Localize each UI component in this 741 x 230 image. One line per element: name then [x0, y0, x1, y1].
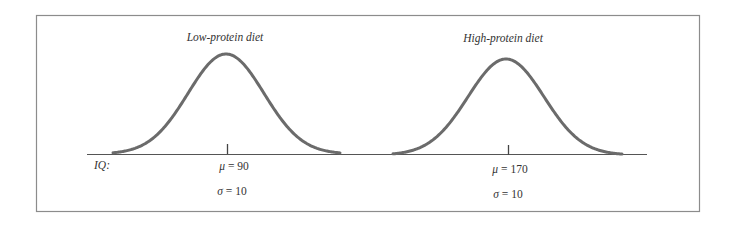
mean-value: = 170 [501, 163, 528, 175]
sigma-symbol: σ [217, 185, 223, 197]
low-protein-curve [113, 54, 340, 153]
high-protein-title: High-protein diet [463, 33, 543, 45]
x-axis-label: IQ: [94, 160, 110, 172]
high-protein-curve [393, 59, 622, 154]
high-protein-mean-label: μ = 170 [492, 164, 527, 176]
normal-distributions-figure: Low-protein diet High-protein diet IQ: μ… [0, 0, 741, 230]
high-protein-sd-label: σ = 10 [493, 189, 522, 201]
low-protein-mean-label: μ = 90 [219, 161, 249, 173]
mu-symbol: μ [219, 160, 225, 172]
sd-value: = 10 [502, 188, 523, 200]
sigma-symbol: σ [493, 188, 499, 200]
low-protein-sd-label: σ = 10 [217, 186, 246, 198]
sd-value: = 10 [226, 185, 247, 197]
mu-symbol: μ [492, 163, 498, 175]
plot-canvas [0, 0, 741, 230]
mean-value: = 90 [228, 160, 249, 172]
low-protein-title: Low-protein diet [187, 32, 264, 44]
figure-frame [37, 16, 700, 212]
